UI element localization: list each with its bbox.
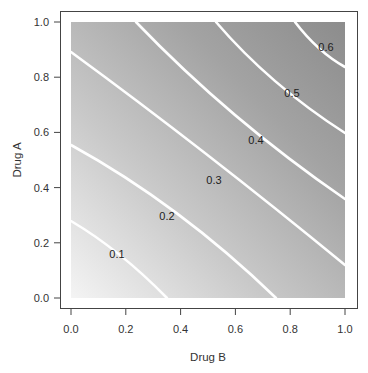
y-axis-title: Drug A: [11, 142, 23, 177]
contour-label-0.3: 0.3: [206, 174, 221, 186]
y-tick-label: 0.0: [34, 292, 49, 304]
x-tick-label: 0.0: [63, 323, 78, 335]
contour-label-0.4: 0.4: [248, 134, 263, 146]
x-tick-label: 0.2: [118, 323, 133, 335]
contour-chart: 0.1 0.2 0.3 0.4 0.5 0.6 0.0 0.2 0.4 0.6 …: [0, 0, 368, 373]
x-tick-label: 0.6: [228, 323, 243, 335]
y-tick-label: 0.2: [34, 237, 49, 249]
x-axis-labels: 0.0 0.2 0.4 0.6 0.8 1.0: [63, 323, 352, 335]
y-axis-labels: 0.0 0.2 0.4 0.6 0.8 1.0: [34, 16, 49, 304]
y-tick-label: 1.0: [34, 16, 49, 28]
contour-label-0.5: 0.5: [284, 87, 299, 99]
y-axis-ticks: [54, 22, 60, 298]
x-tick-label: 0.8: [283, 323, 298, 335]
contour-label-0.2: 0.2: [159, 210, 174, 222]
x-axis-title: Drug B: [190, 351, 226, 363]
y-tick-label: 0.8: [34, 71, 49, 83]
x-tick-label: 1.0: [337, 323, 352, 335]
y-tick-label: 0.6: [34, 126, 49, 138]
contour-label-0.6: 0.6: [318, 41, 333, 53]
contour-label-0.1: 0.1: [109, 248, 124, 260]
y-tick-label: 0.4: [34, 182, 49, 194]
x-tick-label: 0.4: [173, 323, 188, 335]
x-axis-ticks: [71, 309, 345, 315]
